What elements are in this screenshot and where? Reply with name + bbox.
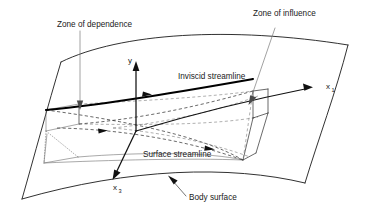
axis-label-x3: x 3 <box>113 183 122 194</box>
svg-text:3: 3 <box>119 188 122 194</box>
zone-of-influence-leader <box>249 28 276 105</box>
svg-text:x: x <box>326 82 330 91</box>
label-inviscid-streamline: Inviscid streamline <box>178 72 246 81</box>
svg-text:1: 1 <box>332 87 335 93</box>
label-zone-of-influence: Zone of influence <box>253 9 316 18</box>
label-surface-streamline: Surface streamline <box>143 150 212 159</box>
axis-label-y: y <box>128 56 132 65</box>
zone-of-dependence-leader <box>77 31 83 110</box>
axis-label-x1: x 1 <box>326 82 335 93</box>
body-surface-leader <box>168 176 186 197</box>
technical-diagram: y x 1 x 3 Zone of dependence Zone of inf… <box>0 0 367 218</box>
label-zone-of-dependence: Zone of dependence <box>57 20 133 29</box>
svg-text:x: x <box>113 183 117 192</box>
label-body-surface: Body surface <box>189 193 237 202</box>
